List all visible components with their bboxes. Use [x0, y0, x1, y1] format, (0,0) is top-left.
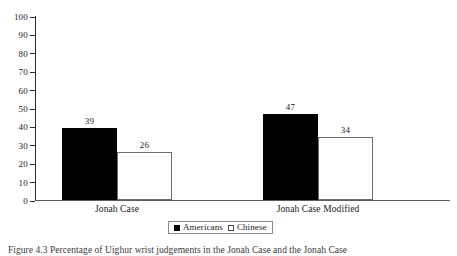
y-tick-label: 90: [2, 31, 28, 40]
y-tick-label: 70: [2, 68, 28, 77]
x-axis-line: [35, 200, 450, 201]
bar-value-label: 39: [62, 117, 117, 126]
bar-value-label: 34: [318, 126, 373, 135]
y-tick-label: 80: [2, 50, 28, 59]
y-tick-label: 60: [2, 87, 28, 96]
legend-swatch-hollow-icon: [228, 225, 234, 231]
bar-value-label: 26: [117, 141, 172, 150]
x-category-label-jonah-case-modified: Jonah Case Modified: [263, 203, 373, 215]
y-tick-label: 100: [2, 13, 28, 22]
legend-item-chinese: Chinese: [228, 223, 267, 232]
bar-jonah-case-modified-chinese: [318, 137, 373, 200]
chart-legend: Americans Chinese: [168, 221, 273, 234]
bar-jonah-case-americans: [62, 128, 117, 200]
x-category-label-jonah-case: Jonah Case: [62, 203, 172, 215]
y-tick-label: 30: [2, 142, 28, 151]
y-tick-label: 20: [2, 160, 28, 169]
legend-label: Americans: [183, 223, 223, 232]
bar-chart: 100 90 80 70 60 50 40 30: [0, 0, 457, 256]
y-tick-label: 0: [2, 197, 28, 206]
legend-item-americans: Americans: [174, 223, 223, 232]
legend-swatch-filled-icon: [174, 225, 180, 231]
y-tick-label: 10: [2, 179, 28, 188]
legend-label: Chinese: [237, 223, 267, 232]
y-tick-label: 40: [2, 123, 28, 132]
bar-jonah-case-chinese: [117, 152, 172, 200]
plot-area: 39 26 47 34: [35, 16, 450, 200]
figure-caption: Figure 4.3 Percentage of Uighur wrist ju…: [8, 244, 454, 256]
bar-value-label: 47: [263, 103, 318, 112]
bar-jonah-case-modified-americans: [263, 114, 318, 201]
y-tick-label: 50: [2, 105, 28, 114]
